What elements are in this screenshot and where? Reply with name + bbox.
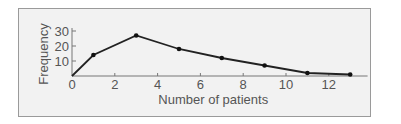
data-line [72, 36, 350, 77]
line-chart: 024681012102030Number of patientsFrequen… [0, 0, 401, 124]
x-tick-label: 4 [154, 77, 161, 92]
data-point [305, 71, 310, 76]
y-axis-label: Frequency [36, 23, 51, 85]
data-point [220, 56, 225, 61]
x-tick-label: 10 [279, 77, 293, 92]
x-tick-label: 8 [240, 77, 247, 92]
data-point [134, 33, 139, 38]
x-tick-label: 2 [111, 77, 118, 92]
data-point [91, 53, 96, 58]
data-point [177, 47, 182, 52]
x-tick-label: 0 [68, 77, 75, 92]
y-tick-label: 20 [55, 39, 69, 54]
x-tick-label: 12 [322, 77, 336, 92]
y-tick-label: 30 [55, 24, 69, 39]
y-tick-label: 10 [55, 54, 69, 69]
data-point [348, 72, 353, 77]
x-axis-label: Number of patients [158, 92, 268, 107]
data-point [262, 63, 267, 68]
x-tick-label: 6 [197, 77, 204, 92]
